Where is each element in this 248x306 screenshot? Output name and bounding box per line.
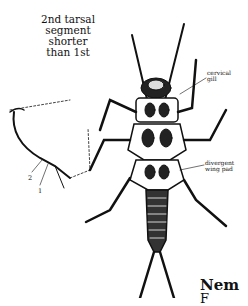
gill-word: gill (207, 76, 231, 82)
note-line-4: than 1st (28, 47, 108, 58)
next-line-fragment: F (200, 291, 209, 306)
cervical-gill-label: cervical gill (207, 70, 231, 83)
tarsal-segment-note: 2nd tarsal segment shorter than 1st (28, 14, 108, 58)
wing-pad-word: wing pad (205, 166, 234, 172)
divergent-wing-pad-label: divergent wing pad (205, 160, 234, 173)
segment-number-1: 1 (38, 187, 42, 195)
segment-number-2: 2 (28, 174, 32, 182)
